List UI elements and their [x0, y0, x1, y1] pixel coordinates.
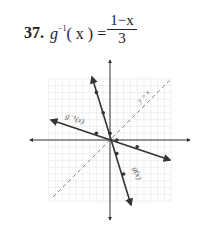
graph: g⁻¹(x) y = x g(x) — [0, 0, 202, 239]
data-point — [95, 91, 99, 95]
y-equals-x-label: y = x — [135, 88, 152, 105]
data-point — [95, 131, 99, 135]
data-point — [108, 131, 112, 135]
data-point — [101, 111, 105, 115]
data-point — [122, 172, 126, 176]
g-label: g(x) — [131, 166, 144, 181]
data-point — [135, 145, 139, 149]
data-point — [115, 138, 119, 142]
data-point — [115, 152, 119, 156]
